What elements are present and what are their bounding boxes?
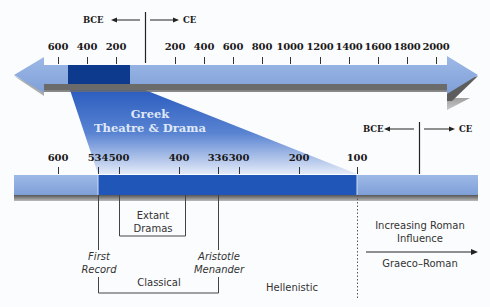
bottom-tick-label: 534 <box>88 152 108 163</box>
bottom-tick-label: 200 <box>289 152 309 163</box>
top-tick-mark <box>262 57 263 64</box>
top-bce-label: BCE <box>83 15 104 25</box>
callout-title-line2: Theatre & Drama <box>90 121 210 135</box>
bottom-tick-label: 100 <box>347 152 367 163</box>
greek-theatre-title: Greek Theatre & Drama <box>90 107 210 135</box>
top-tick-label: 600 <box>48 41 68 52</box>
aristotle-line1: Aristotle <box>188 250 250 263</box>
bottom-tick-label: 500 <box>109 152 129 163</box>
bottom-tick-mark <box>119 167 120 174</box>
bottom-tick-label: 336 <box>208 152 228 163</box>
roman-influence-label: Increasing Roman Influence <box>366 219 474 245</box>
bottom-tick-mark <box>218 167 219 174</box>
top-highlight-block <box>68 65 130 84</box>
top-tick-mark <box>290 57 291 64</box>
top-tick-mark <box>436 57 437 64</box>
first-record-line2: Record <box>72 263 126 276</box>
top-tick-label: 1800 <box>393 41 420 52</box>
top-tick-label: 1200 <box>306 41 333 52</box>
first-record-label: First Record <box>72 250 126 276</box>
top-tick-label: 600 <box>223 41 243 52</box>
bottom-ce-label: CE <box>459 124 472 134</box>
top-tick-mark <box>175 57 176 64</box>
extant-dramas-label: Extant Dramas <box>120 209 186 235</box>
top-tick-mark <box>233 57 234 64</box>
classical-label: Classical <box>128 277 190 288</box>
extant-line2: Dramas <box>120 222 186 235</box>
top-tick-mark <box>204 57 205 64</box>
callout-title-line1: Greek <box>90 107 210 121</box>
bottom-tick-label: 600 <box>48 152 68 163</box>
bottom-tick-mark <box>58 167 59 174</box>
bottom-tick-label: 300 <box>229 152 249 163</box>
top-tick-label: 2000 <box>422 41 449 52</box>
first-record-line1: First <box>72 250 126 263</box>
bottom-bce-label: BCE <box>363 124 384 134</box>
bottom-bar-shadow <box>14 195 478 201</box>
top-tick-label: 1600 <box>364 41 391 52</box>
top-ce-label: CE <box>183 15 196 25</box>
aristotle-line2: Menander <box>188 263 250 276</box>
bottom-bar-dark <box>98 175 357 195</box>
hellenistic-label: Hellenistic <box>260 282 324 293</box>
top-tick-mark <box>116 57 117 64</box>
bottom-tick-mark <box>299 167 300 174</box>
top-tick-label: 800 <box>252 41 272 52</box>
top-tick-mark <box>320 57 321 64</box>
aristotle-menander-label: Aristotle Menander <box>188 250 250 276</box>
extant-line1: Extant <box>120 209 186 222</box>
roman-influence-line2: Influence <box>366 232 474 245</box>
top-tick-mark <box>349 57 350 64</box>
bottom-tick-mark <box>357 167 358 174</box>
top-tick-mark <box>58 57 59 64</box>
top-tick-mark <box>407 57 408 64</box>
top-tick-label: 200 <box>165 41 185 52</box>
top-tick-mark <box>378 57 379 64</box>
bottom-tick-label: 400 <box>169 152 189 163</box>
bottom-tick-mark <box>98 167 99 174</box>
top-tick-label: 400 <box>194 41 214 52</box>
top-tick-label: 200 <box>106 41 126 52</box>
bottom-tick-mark <box>239 167 240 174</box>
bottom-tick-mark <box>179 167 180 174</box>
top-tick-label: 1000 <box>276 41 303 52</box>
roman-influence-line1: Increasing Roman <box>366 219 474 232</box>
graeco-roman-label: Graeco–Roman <box>366 258 474 269</box>
top-tick-label: 400 <box>77 41 97 52</box>
top-tick-label: 1400 <box>335 41 362 52</box>
top-tick-mark <box>87 57 88 64</box>
